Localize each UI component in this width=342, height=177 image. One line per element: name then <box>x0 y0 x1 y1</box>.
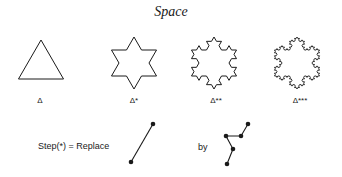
koch-iteration-1-figure <box>111 37 156 89</box>
label-delta-star: Δ* <box>130 96 138 105</box>
replacement-polyline <box>224 122 251 167</box>
vertex-dot <box>151 122 156 127</box>
vertex-dot <box>231 147 236 152</box>
vertex-dot <box>129 160 134 165</box>
original-segment <box>129 122 156 165</box>
diagram-title: Space <box>0 4 342 20</box>
vertex-dot <box>224 134 229 139</box>
koch-iteration-2-figure <box>191 37 236 89</box>
vertex-dot <box>246 122 251 127</box>
label-delta-star-star: Δ** <box>210 96 222 105</box>
vertex-dot <box>239 134 244 139</box>
polyline-edges <box>226 124 248 164</box>
by-caption: by <box>198 142 208 152</box>
koch-iteration-3-figure <box>274 37 319 89</box>
vertex-dot <box>225 162 230 167</box>
triangle-figure <box>18 40 63 79</box>
label-delta-star-star-star: Δ*** <box>293 96 308 105</box>
polyline-edges <box>131 124 153 162</box>
step-replace-caption: Step(*) = Replace <box>38 141 109 151</box>
label-delta: Δ <box>37 96 42 105</box>
